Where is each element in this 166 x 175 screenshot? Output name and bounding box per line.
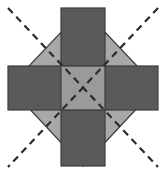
figure-container bbox=[0, 0, 166, 175]
geometric-figure bbox=[0, 0, 166, 175]
